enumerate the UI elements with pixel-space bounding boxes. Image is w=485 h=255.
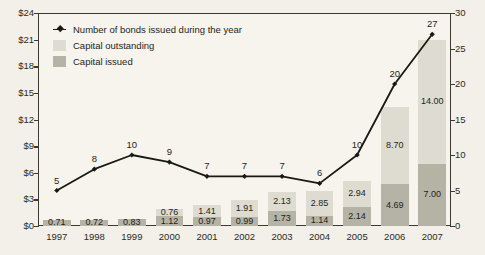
bar-value-label: 0.83 xyxy=(123,218,141,227)
y-axis-left: $0$3$6$9$12$15$18$21$24 xyxy=(0,0,34,255)
legend-item-capital-issued: Capital issued xyxy=(53,54,242,68)
bar-group[interactable]: 1.410.97 xyxy=(193,205,221,226)
y-axis-right-tick-mark xyxy=(450,84,455,85)
x-axis-tick-label: 2005 xyxy=(347,231,368,242)
bar-value-label: 2.14 xyxy=(348,212,366,221)
y-axis-left-tick-mark xyxy=(34,173,39,174)
bar-segment-capital-outstanding[interactable]: 2.85 xyxy=(306,191,334,216)
y-axis-right-tick-label: 25 xyxy=(455,44,466,54)
bar-value-label: 1.12 xyxy=(161,217,179,226)
bar-value-label: 0.72 xyxy=(86,218,104,227)
x-axis-tick-label: 1998 xyxy=(84,231,105,242)
y-axis-left-tick-label: $18 xyxy=(18,61,34,71)
bar-segment-capital-outstanding[interactable]: 2.13 xyxy=(268,192,296,211)
y-axis-right-tick-mark xyxy=(450,191,455,192)
bar-group[interactable]: 8.704.69 xyxy=(381,107,409,226)
bar-value-label: 4.69 xyxy=(386,201,404,210)
x-axis-tick-label: 2007 xyxy=(422,231,443,242)
bar-segment-capital-issued[interactable]: 1.12 xyxy=(156,216,184,226)
y-axis-right-tick-label: 10 xyxy=(455,150,466,160)
x-axis-tick-label: 2002 xyxy=(234,231,255,242)
y-axis-left-tick-mark xyxy=(34,226,39,227)
legend-item-bonds-line: Number of bonds issued during the year xyxy=(53,22,242,36)
bar-segment-capital-issued[interactable]: 0.72 xyxy=(80,220,108,226)
bar-group[interactable]: 14.007.00 xyxy=(418,40,446,226)
bar-segment-capital-issued[interactable]: 1.73 xyxy=(268,211,296,226)
bar-segment-capital-issued[interactable]: 7.00 xyxy=(418,164,446,226)
x-axis-tick-label: 2003 xyxy=(271,231,292,242)
y-axis-right-tick-mark xyxy=(450,49,455,50)
y-axis-right: 051015202530 xyxy=(455,0,485,255)
bar-segment-capital-outstanding[interactable]: 14.00 xyxy=(418,40,446,164)
bar-group[interactable]: 2.131.73 xyxy=(268,192,296,226)
y-axis-left-tick-mark xyxy=(34,93,39,94)
bar-segment-capital-issued[interactable]: 1.14 xyxy=(306,216,334,226)
bar-value-label: 7.00 xyxy=(423,190,441,199)
y-axis-right-tick-label: 15 xyxy=(455,115,466,125)
legend-label: Capital issued xyxy=(73,56,133,67)
bar-segment-capital-issued[interactable]: 2.14 xyxy=(343,207,371,226)
y-axis-left-tick-mark xyxy=(34,199,39,200)
x-axis-labels: 1997199819992000200120022003200420052006… xyxy=(38,229,451,247)
y-axis-left-tick-label: $12 xyxy=(18,115,34,125)
chart-legend: Number of bonds issued during the year C… xyxy=(53,22,242,70)
swatch-light-icon xyxy=(53,40,66,51)
bar-value-label: 1.41 xyxy=(198,207,216,216)
bar-value-label: 0.71 xyxy=(48,218,66,227)
bar-value-label: 1.91 xyxy=(236,204,254,213)
bar-value-label: 2.94 xyxy=(348,189,366,198)
y-axis-left-tick-label: $3 xyxy=(23,194,34,204)
bar-value-label: 14.00 xyxy=(421,97,444,106)
legend-item-capital-outstanding: Capital outstanding xyxy=(53,38,242,52)
bar-segment-capital-issued[interactable]: 0.83 xyxy=(118,219,146,226)
bar-group[interactable]: 2.851.14 xyxy=(306,191,334,226)
y-axis-right-tick-mark xyxy=(450,120,455,121)
y-axis-left-tick-mark xyxy=(34,146,39,147)
bar-group[interactable]: 0.761.12 xyxy=(156,209,184,226)
bar-value-label: 8.70 xyxy=(386,141,404,150)
swatch-dark-icon xyxy=(53,56,66,67)
y-axis-right-tick-mark xyxy=(450,155,455,156)
y-axis-left-tick-mark xyxy=(34,66,39,67)
bar-value-label: 2.85 xyxy=(311,199,329,208)
x-axis-tick-label: 1999 xyxy=(121,231,142,242)
bar-value-label: 1.14 xyxy=(311,216,329,225)
y-axis-left-tick-label: $9 xyxy=(23,141,34,151)
bar-group[interactable]: 1.910.99 xyxy=(231,200,259,226)
bar-value-label: 2.13 xyxy=(273,197,291,206)
bar-segment-capital-outstanding[interactable]: 8.70 xyxy=(381,107,409,184)
bar-segment-capital-issued[interactable]: 0.71 xyxy=(43,220,71,226)
y-axis-left-tick-label: $0 xyxy=(23,221,34,231)
bar-group[interactable]: 0.83 xyxy=(118,219,146,226)
y-axis-right-tick-label: 0 xyxy=(455,221,460,231)
x-axis-tick-label: 2000 xyxy=(159,231,180,242)
bar-segment-capital-issued[interactable]: 0.97 xyxy=(193,217,221,226)
chart-container: $0$3$6$9$12$15$18$21$24 051015202530 0.7… xyxy=(0,0,485,255)
bar-group[interactable]: 0.72 xyxy=(80,220,108,226)
y-axis-left-tick-label: $15 xyxy=(18,88,34,98)
y-axis-right-tick-mark xyxy=(450,226,455,227)
y-axis-right-tick-mark xyxy=(450,13,455,14)
x-axis-tick-label: 2001 xyxy=(196,231,217,242)
y-axis-left-tick-mark xyxy=(34,13,39,14)
bar-value-label: 0.97 xyxy=(198,217,216,226)
y-axis-right-tick-label: 5 xyxy=(455,186,460,196)
bar-segment-capital-issued[interactable]: 0.99 xyxy=(231,217,259,226)
bar-segment-capital-outstanding[interactable]: 2.94 xyxy=(343,181,371,207)
x-axis-tick-label: 1997 xyxy=(46,231,67,242)
legend-label: Number of bonds issued during the year xyxy=(73,24,242,35)
legend-label: Capital outstanding xyxy=(73,40,154,51)
bar-group[interactable]: 0.71 xyxy=(43,220,71,226)
x-axis-tick-label: 2006 xyxy=(384,231,405,242)
bar-segment-capital-issued[interactable]: 4.69 xyxy=(381,184,409,226)
bar-group[interactable]: 2.942.14 xyxy=(343,181,371,226)
y-axis-left-tick-label: $21 xyxy=(18,35,34,45)
bar-value-label: 1.73 xyxy=(273,214,291,223)
y-axis-left-tick-mark xyxy=(34,120,39,121)
y-axis-left-tick-mark xyxy=(34,40,39,41)
y-axis-left-tick-label: $24 xyxy=(18,8,34,18)
line-marker-icon xyxy=(53,24,66,35)
y-axis-left-tick-label: $6 xyxy=(23,168,34,178)
bar-segment-capital-outstanding[interactable]: 1.91 xyxy=(231,200,259,217)
x-axis-tick-label: 2004 xyxy=(309,231,330,242)
